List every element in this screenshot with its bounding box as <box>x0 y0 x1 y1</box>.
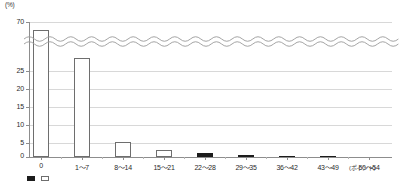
x-tick-minor-8 <box>348 157 349 159</box>
x-tick-label-36-42: 36～42 <box>267 162 307 172</box>
x-axis-line <box>29 157 392 158</box>
x-tick-mark-22-28 <box>205 157 206 160</box>
y-tick-label-0: 0 <box>0 152 24 159</box>
x-tick-label-15-21: 15～21 <box>144 162 184 172</box>
x-tick-mark-50-54 <box>369 157 370 160</box>
y-tick-mark-20 <box>26 89 29 90</box>
legend <box>27 175 52 182</box>
x-tick-minor-5 <box>225 157 226 159</box>
bar-15-21 <box>156 150 172 157</box>
x-tick-label-29-35: 29～35 <box>226 162 266 172</box>
y-axis-unit-label: (%) <box>5 1 15 8</box>
x-tick-minor-2 <box>102 157 103 159</box>
x-tick-mark-43-49 <box>328 157 329 160</box>
bar-chart: (%) 70 25 20 15 10 5 0 <box>0 0 399 182</box>
y-tick-mark-10 <box>26 125 29 126</box>
x-tick-mark-0 <box>41 157 42 160</box>
bar-0 <box>33 30 49 157</box>
x-tick-mark-36-42 <box>287 157 288 160</box>
y-tick-label-5: 5 <box>0 139 24 146</box>
legend-swatch-hollow <box>41 176 49 181</box>
y-tick-mark-25 <box>26 71 29 72</box>
x-tick-minor-3 <box>143 157 144 159</box>
x-tick-mark-29-35 <box>246 157 247 160</box>
x-tick-mark-1-7 <box>82 157 83 160</box>
x-tick-mark-15-21 <box>164 157 165 160</box>
x-tick-label-43-49: 43～49 <box>308 162 348 172</box>
y-tick-label-20: 20 <box>0 85 24 92</box>
x-tick-label-0: 0 <box>21 162 61 169</box>
x-tick-minor-6 <box>266 157 267 159</box>
y-tick-mark-0 <box>26 157 29 158</box>
y-tick-mark-5 <box>26 143 29 144</box>
x-tick-label-1-7: 1～7 <box>62 162 102 172</box>
bar-8-14 <box>115 142 131 157</box>
bar-1-7 <box>74 58 90 157</box>
y-tick-label-70: 70 <box>0 18 24 25</box>
x-tick-mark-8-14 <box>123 157 124 160</box>
y-axis-line <box>29 22 30 158</box>
y-tick-label-10: 10 <box>0 121 24 128</box>
gridline-70 <box>29 22 392 23</box>
y-tick-label-25: 25 <box>0 67 24 74</box>
x-tick-label-22-28: 22～28 <box>185 162 225 172</box>
y-tick-mark-15 <box>26 107 29 108</box>
x-tick-minor-7 <box>307 157 308 159</box>
y-tick-label-15: 15 <box>0 103 24 110</box>
x-tick-label-8-14: 8～14 <box>103 162 143 172</box>
legend-swatch-solid <box>27 176 35 181</box>
y-tick-mark-70 <box>26 22 29 23</box>
x-axis-unit-label: (ポイント) <box>349 163 375 172</box>
x-tick-minor-4 <box>184 157 185 159</box>
x-tick-minor-1 <box>61 157 62 159</box>
